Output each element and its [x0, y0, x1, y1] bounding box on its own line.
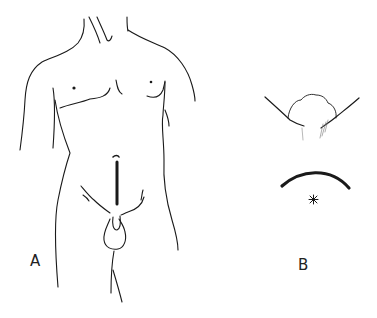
medical-illustration: A B	[0, 0, 377, 318]
left-nipple	[72, 86, 75, 89]
right-nipple	[150, 81, 153, 84]
panel-label-b: B	[298, 258, 308, 273]
illustration-drawing	[0, 0, 377, 318]
navel	[113, 156, 119, 158]
curved-incision	[282, 173, 349, 188]
panel-b-closeup	[265, 94, 359, 204]
panel-a-torso	[20, 17, 195, 302]
mark-star-icon	[309, 195, 318, 204]
panel-label-a: A	[30, 254, 40, 269]
